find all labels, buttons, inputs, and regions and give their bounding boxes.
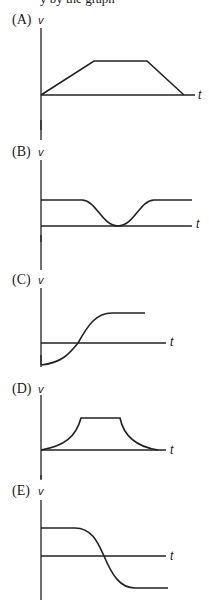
- velocity-time-plot: [0, 475, 209, 606]
- graph-option-c: (C) v t: [0, 235, 209, 360]
- velocity-time-plot: [0, 0, 209, 130]
- graph-option-d: (D) v t: [0, 355, 209, 480]
- graph-option-b: (B) v t: [0, 120, 209, 245]
- velocity-time-plot: [0, 120, 209, 245]
- velocity-time-plot: [0, 355, 209, 480]
- graph-option-e: (E) v t: [0, 475, 209, 606]
- graph-option-a: (A) v t: [0, 0, 209, 130]
- velocity-time-plot: [0, 235, 209, 360]
